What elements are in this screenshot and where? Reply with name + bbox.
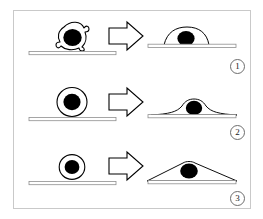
substrate-after-2 xyxy=(148,115,236,118)
round-cell-before-1 xyxy=(56,22,89,51)
panel-row-3: 3 xyxy=(13,142,251,208)
spread-cell-after-2 xyxy=(151,99,237,115)
panel-3-illustration xyxy=(13,142,251,208)
panel-index-2: 2 xyxy=(230,125,245,140)
nucleus-3 xyxy=(65,160,80,174)
substrate-after-3 xyxy=(148,181,236,184)
round-cell-before-3 xyxy=(59,155,85,180)
panel-1-illustration xyxy=(13,10,251,76)
block-arrow-right-icon-3 xyxy=(109,152,143,180)
block-arrow-right-icon-1 xyxy=(109,22,143,50)
substrate-before-1 xyxy=(29,52,116,55)
substrate-before-2 xyxy=(29,118,116,121)
spread-cell-after-1 xyxy=(164,27,209,46)
nucleus-spread-3 xyxy=(180,163,198,178)
panel-row-1: 1 xyxy=(13,10,251,76)
nucleus-1 xyxy=(63,29,81,46)
round-cell-before-2 xyxy=(57,88,87,117)
cell-spreading-figure: 1 xyxy=(0,0,263,219)
nucleus-2 xyxy=(63,94,80,110)
panel-index-3: 3 xyxy=(230,191,245,206)
panel-row-2: 2 xyxy=(13,76,251,142)
spread-cell-after-3 xyxy=(147,162,237,182)
substrate-before-3 xyxy=(29,182,116,185)
nucleus-spread-2 xyxy=(186,101,202,115)
block-arrow-right-icon-2 xyxy=(109,88,143,116)
panel-index-1: 1 xyxy=(230,59,245,74)
nucleus-spread-1 xyxy=(177,31,194,46)
panel-2-illustration xyxy=(13,76,251,142)
substrate-after-1 xyxy=(148,44,236,47)
